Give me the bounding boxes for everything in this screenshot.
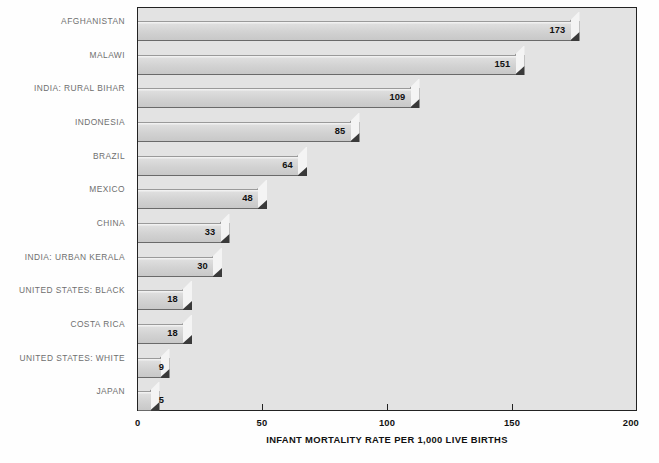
- category-label: INDIA: RURAL BIHAR: [0, 83, 125, 93]
- bar-group: 18: [138, 281, 192, 310]
- x-axis-tick-label: 0: [135, 417, 140, 428]
- bar-group: 173: [138, 12, 580, 41]
- bar-group: 18: [138, 315, 192, 344]
- bar-value-label: 85: [324, 127, 346, 136]
- bar-value-label: 33: [194, 228, 216, 237]
- bar-group: 9: [138, 349, 170, 378]
- x-axis-tick-label: 50: [257, 417, 268, 428]
- category-label: BRAZIL: [0, 151, 125, 161]
- chart-figure: AFGHANISTANMALAWIINDIA: RURAL BIHARINDON…: [0, 0, 659, 463]
- x-axis-tick-label: 200: [623, 417, 639, 428]
- category-label: UNITED STATES: WHITE: [0, 353, 125, 363]
- bar-value-label: 5: [142, 396, 164, 405]
- bar-face[interactable]: [138, 88, 411, 108]
- bar-value-label: 48: [231, 194, 253, 203]
- bar-value-label: 64: [271, 161, 293, 170]
- bar-group: 5: [138, 382, 160, 411]
- bar-face[interactable]: [138, 21, 571, 41]
- bar-group: 48: [138, 180, 267, 209]
- x-axis-title: INFANT MORTALITY RATE PER 1,000 LIVE BIR…: [137, 434, 637, 445]
- bar-group: 85: [138, 113, 360, 142]
- x-axis-tick: [512, 404, 513, 410]
- plot-area: 1731511098564483330181895: [137, 7, 637, 411]
- category-label: CHINA: [0, 218, 125, 228]
- bar-value-label: 9: [142, 363, 164, 372]
- bar-value-label: 30: [186, 262, 208, 271]
- bar-group: 33: [138, 214, 230, 243]
- bar-value-label: 109: [384, 93, 406, 102]
- x-axis-tick: [262, 404, 263, 410]
- bar-group: 151: [138, 46, 525, 75]
- bar-face[interactable]: [138, 55, 516, 75]
- x-axis-tick-label: 150: [504, 417, 520, 428]
- x-axis-tick-label: 100: [379, 417, 395, 428]
- category-label: UNITED STATES: BLACK: [0, 285, 125, 295]
- bars-container: 1731511098564483330181895: [138, 8, 636, 410]
- category-label: JAPAN: [0, 386, 125, 396]
- category-label: MEXICO: [0, 184, 125, 194]
- bar-group: 109: [138, 79, 420, 108]
- category-label: INDIA: URBAN KERALA: [0, 252, 125, 262]
- bar-value-label: 18: [156, 295, 178, 304]
- category-axis-labels: AFGHANISTANMALAWIINDIA: RURAL BIHARINDON…: [0, 7, 131, 411]
- category-label: MALAWI: [0, 50, 125, 60]
- category-label: INDONESIA: [0, 117, 125, 127]
- x-axis-tick: [387, 404, 388, 410]
- category-label: AFGHANISTAN: [0, 16, 125, 26]
- bar-group: 30: [138, 248, 222, 277]
- bar-value-label: 151: [489, 60, 511, 69]
- category-label: COSTA RICA: [0, 319, 125, 329]
- bar-value-label: 18: [156, 329, 178, 338]
- bar-value-label: 173: [544, 26, 566, 35]
- bar-face[interactable]: [138, 122, 351, 142]
- bar-group: 64: [138, 147, 307, 176]
